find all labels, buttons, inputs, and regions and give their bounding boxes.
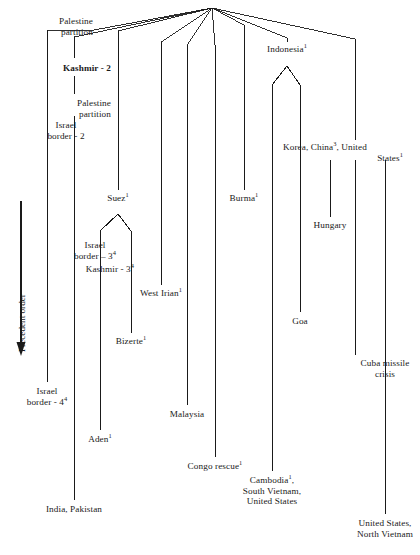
node-label-line1: Hungary (314, 220, 347, 230)
indonesia-apex-split (272, 66, 300, 85)
node-label-line2: South Vietnam, (243, 486, 301, 497)
node-label-line2: border - 4 (27, 397, 64, 407)
node-label-line1: West Irian (140, 288, 179, 298)
node-india-pakistan[interactable]: India, Pakistan (46, 504, 102, 515)
node-superscript: 1 (143, 334, 146, 341)
node-label-line1: Cuba missile (361, 358, 410, 369)
node-label-line2: States (377, 153, 400, 163)
fan-to-korea-china-us (212, 8, 355, 39)
node-label-line1: India, Pakistan (46, 504, 102, 514)
node-burma[interactable]: Burma1 (230, 193, 259, 204)
fan-to-congo (212, 8, 215, 45)
fan-to-suez (118, 8, 212, 31)
node-west-irian[interactable]: West Irian1 (140, 288, 182, 299)
node-hungary[interactable]: Hungary (314, 220, 347, 231)
node-label-tail: , United (336, 142, 366, 152)
node-superscript: 1 (109, 432, 112, 439)
node-aden[interactable]: Aden1 (88, 434, 112, 445)
node-label-line1: Indonesia (267, 44, 304, 54)
suez-apex-split (100, 214, 131, 231)
node-label-line1: Palestine (59, 16, 93, 27)
node-superscript-2: 4 (64, 394, 67, 401)
node-label-line1: Malaysia (170, 409, 204, 419)
node-israel-border-2[interactable]: Israel border - 2 (47, 120, 84, 141)
node-label-tail: , (292, 475, 294, 485)
node-palestine-partition-2[interactable]: Palestine partition (77, 98, 111, 119)
node-label-line2: border - 2 (47, 131, 84, 142)
node-israel-border-3[interactable]: Israel border – 34 (74, 240, 116, 261)
node-label-line1: Bizerte (116, 336, 143, 346)
node-superscript: 4 (131, 262, 134, 269)
node-label-line2: crisis (361, 369, 410, 380)
node-label-line2: partition (77, 109, 111, 120)
node-label-line1: Burma (230, 193, 256, 203)
node-label-line1: Palestine (77, 98, 111, 109)
node-malaysia[interactable]: Malaysia (170, 409, 204, 420)
fan-to-indonesia (212, 8, 287, 38)
node-cambodia-south-vietnam-united-states[interactable]: Cambodia1, South Vietnam, United States (243, 475, 301, 507)
node-kashmir-3[interactable]: Kashmir - 34 (86, 264, 134, 275)
node-kashmir-2[interactable]: Kashmir - 2 (63, 63, 111, 74)
fan-to-kashmir-2 (74, 8, 212, 37)
node-label-line2: border – 3 (74, 251, 113, 261)
node-superscript: 1 (125, 191, 128, 198)
node-superscript: 1 (255, 191, 258, 198)
node-bizerte[interactable]: Bizerte1 (116, 336, 147, 347)
node-label-line1: Congo rescue (188, 461, 239, 471)
node-superscript: 1 (304, 42, 307, 49)
node-korea-china-united-states[interactable]: Korea, China3, United States1 (283, 142, 417, 163)
tree-line-network (0, 0, 420, 555)
node-label-line1: Israel (27, 386, 68, 397)
node-label-line1: Aden (88, 434, 108, 444)
node-label-line1: Kashmir - 3 (86, 264, 131, 274)
precedent-order-axis-label: Precedent order (17, 294, 27, 352)
node-label-line2: North Vietnam (357, 529, 413, 540)
apex-fan (47, 8, 355, 45)
node-suez[interactable]: Suez1 (107, 193, 129, 204)
node-cuba-missile-crisis[interactable]: Cuba missile crisis (361, 358, 410, 379)
node-label-line1: Israel (47, 120, 84, 131)
node-label-line1: Korea, China (283, 142, 333, 152)
node-palestine-partition-1[interactable]: Palestine partition (59, 16, 93, 37)
node-label-line1: Kashmir - 2 (63, 63, 111, 73)
diagram-canvas: Palestine partition Kashmir - 2 Palestin… (0, 0, 420, 555)
node-united-states-north-vietnam[interactable]: United States, North Vietnam (357, 518, 413, 539)
node-label-line2: partition (59, 27, 93, 38)
node-label-line1: Suez (107, 193, 125, 203)
node-label-line1: Israel (74, 240, 116, 251)
node-superscript: 1 (239, 459, 242, 466)
fan-to-burma (212, 8, 244, 25)
node-superscript-2: 4 (113, 248, 116, 255)
node-indonesia[interactable]: Indonesia1 (267, 44, 307, 55)
node-congo-rescue[interactable]: Congo rescue1 (188, 461, 243, 472)
node-superscript: 1 (179, 286, 182, 293)
node-israel-border-4[interactable]: Israel border - 44 (27, 386, 68, 407)
node-label-line1: Cambodia (250, 475, 289, 485)
node-goa[interactable]: Goa (292, 316, 308, 327)
node-label-line1: United States, (357, 518, 413, 529)
node-label-line3: United States (243, 496, 301, 507)
node-superscript-2: 1 (400, 150, 403, 157)
node-label-line1: Goa (292, 316, 308, 326)
